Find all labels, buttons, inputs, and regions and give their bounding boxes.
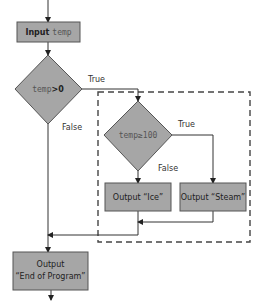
output-steam-node: Output “Steam” [180,183,246,211]
output-ice-node: Output “Ice” [105,183,171,211]
input-temp-node: Inputtemp [17,22,80,42]
d2-true-label: True [177,120,195,129]
output-end-line2: “End of Program” [15,272,85,281]
d1-true-path [82,89,138,101]
svg-text:temp>0: temp>0 [32,85,64,94]
output-end-line1: Output [37,260,65,269]
decision1-variable: temp [32,85,51,94]
input-keyword: Input [25,28,49,37]
decision-temp-ge-100: temp≥100 [104,101,172,171]
steam-to-merge [138,211,213,222]
d1-true-label: True [87,75,105,84]
decision-temp-gt-0: temp>0 [15,55,82,124]
output-end-node: Output “End of Program” [13,252,88,290]
d2-true-path [172,135,213,183]
output-ice-text: Output “Ice” [113,193,163,202]
output-steam-text: Output “Steam” [181,193,245,202]
decision2-text: temp≥100 [119,131,158,140]
decision1-operator: >0 [51,85,64,94]
flowchart-canvas: Inputtemp temp>0 True False temp≥100 Tru… [0,0,262,302]
d2-false-label: False [158,164,178,173]
svg-text:Inputtemp: Inputtemp [25,28,71,37]
d1-false-label: False [62,123,82,132]
input-variable: temp [52,28,71,37]
ice-to-main [48,211,138,235]
